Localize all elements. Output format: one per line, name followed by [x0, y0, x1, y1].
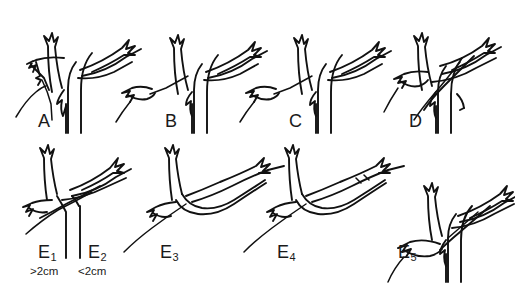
- figure-drawing-canvas: [0, 0, 515, 288]
- panel-label-d-text: D: [409, 111, 422, 131]
- panel-label-e4-subscript: 4: [290, 251, 296, 263]
- figure-background: [0, 0, 515, 288]
- panel-label-e1-text: E: [38, 242, 50, 262]
- panel-label-e5-subscript: 5: [411, 251, 417, 263]
- panel-label-e2-text: E: [88, 242, 100, 262]
- panel-label-c: C: [289, 112, 302, 130]
- size-note-e2: <2cm: [78, 266, 106, 278]
- size-note-e1: >2cm: [30, 266, 58, 278]
- panel-label-e2: E2: [88, 243, 107, 263]
- panel-label-e5-text: E: [398, 242, 410, 262]
- panel-label-a-text: A: [38, 111, 50, 131]
- panel-label-e4: E4: [277, 243, 296, 263]
- panel-label-d: D: [409, 112, 422, 130]
- panel-label-b: B: [165, 112, 177, 130]
- panel-label-e3-text: E: [160, 242, 172, 262]
- panel-label-e1: E1: [38, 243, 57, 263]
- panel-label-b-text: B: [165, 111, 177, 131]
- figure-root: A B C D E1 E2 E3 E4 E5 >2cm <2cm: [0, 0, 515, 288]
- panel-label-a: A: [38, 112, 50, 130]
- panel-label-e5: E5: [398, 243, 417, 263]
- panel-label-e3-subscript: 3: [173, 251, 179, 263]
- panel-label-e2-subscript: 2: [101, 251, 107, 263]
- panel-label-e4-text: E: [277, 242, 289, 262]
- panel-label-e1-subscript: 1: [51, 251, 57, 263]
- panel-label-c-text: C: [289, 111, 302, 131]
- panel-label-e3: E3: [160, 243, 179, 263]
